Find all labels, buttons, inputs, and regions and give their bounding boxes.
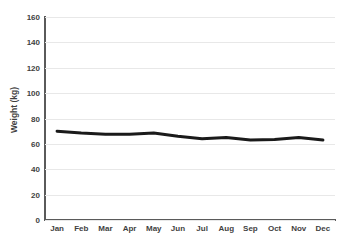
x-axis-tick-label: Jul <box>196 224 208 233</box>
x-axis-tick-label: May <box>146 224 162 233</box>
gridline <box>45 220 335 221</box>
x-axis-tick-label: Dec <box>316 224 331 233</box>
y-axis-tick-label: 80 <box>31 114 40 123</box>
x-axis-tick-label: Jun <box>171 224 185 233</box>
y-axis-tick-label: 100 <box>27 89 40 98</box>
plot-area <box>45 17 335 220</box>
x-axis-tick-label: Oct <box>268 224 281 233</box>
x-axis-tick-label: Sep <box>243 224 258 233</box>
series-weight-line <box>57 131 323 140</box>
y-axis-tick-label: 140 <box>27 38 40 47</box>
y-axis-tick-label: 20 <box>31 190 40 199</box>
x-axis-tick-label: Mar <box>98 224 112 233</box>
x-axis-tick-labels: JanFebMarAprMayJunJulAugSepOctNovDec <box>45 224 335 242</box>
weight-line-chart: Weight (kg) 020406080100120140160 JanFeb… <box>0 0 350 251</box>
y-axis-tick-label: 0 <box>36 216 40 225</box>
series-weight <box>45 17 335 220</box>
y-axis-tick-labels: 020406080100120140160 <box>20 17 42 220</box>
x-axis-tick-label: Jan <box>50 224 64 233</box>
x-axis-tick-label: Nov <box>291 224 306 233</box>
y-axis-title-label: Weight (kg) <box>9 87 19 133</box>
x-axis-tick-label: Apr <box>123 224 137 233</box>
x-axis-tick-label: Aug <box>218 224 234 233</box>
y-axis-tick-label: 160 <box>27 13 40 22</box>
x-axis-tick-label: Feb <box>74 224 88 233</box>
y-axis-tick-label: 120 <box>27 63 40 72</box>
y-axis-tick-label: 60 <box>31 139 40 148</box>
y-axis-tick-label: 40 <box>31 165 40 174</box>
